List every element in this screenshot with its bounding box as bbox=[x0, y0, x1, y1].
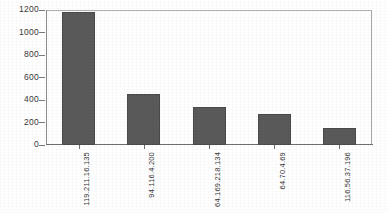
y-axis-tick-label: 800 bbox=[24, 50, 39, 59]
y-axis-tick-label: 1000 bbox=[19, 28, 39, 37]
y-axis-tick-label: 0 bbox=[34, 140, 39, 149]
y-axis-tick bbox=[39, 145, 45, 146]
bar-chart: 020040060080010001200 119.211.16.13594.1… bbox=[0, 0, 388, 213]
x-axis-tick-label: 116.56.37.196 bbox=[343, 152, 352, 202]
bar bbox=[258, 114, 291, 145]
x-axis-tick-label: 64.70.4.69 bbox=[278, 152, 287, 189]
x-axis-tick bbox=[274, 145, 275, 149]
x-axis-tick bbox=[339, 145, 340, 149]
y-axis-tick-label: 1200 bbox=[19, 5, 39, 14]
x-axis-tick bbox=[144, 145, 145, 149]
y-axis-tick bbox=[39, 32, 45, 33]
bar bbox=[193, 107, 226, 145]
y-axis-tick bbox=[39, 122, 45, 123]
x-axis-tick-label: 94.116.4.200 bbox=[147, 152, 156, 198]
y-axis-tick-label: 200 bbox=[24, 118, 39, 127]
bars-layer bbox=[46, 10, 372, 145]
y-axis-tick bbox=[39, 55, 45, 56]
y-axis-tick bbox=[39, 100, 45, 101]
bar bbox=[323, 128, 356, 145]
x-axis-tick bbox=[79, 145, 80, 149]
x-axis-tick-label: 119.211.16.135 bbox=[82, 152, 91, 206]
y-axis-tick-label: 600 bbox=[24, 73, 39, 82]
y-axis-tick bbox=[39, 10, 45, 11]
y-axis-tick bbox=[39, 77, 45, 78]
bar bbox=[127, 94, 160, 145]
bar bbox=[62, 12, 95, 145]
y-axis-tick-label: 400 bbox=[24, 95, 39, 104]
x-axis-tick-label: 64.169.218.134 bbox=[213, 152, 222, 207]
x-axis-tick bbox=[209, 145, 210, 149]
